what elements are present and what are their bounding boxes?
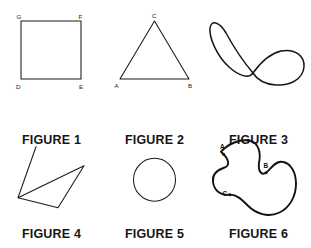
figure-4-caption: FIGURE 4: [22, 228, 81, 248]
figure-5-art: [103, 134, 206, 228]
figure-4-drawing: [0, 134, 103, 228]
figure-6-caption: FIGURE 6: [229, 228, 288, 248]
figure-6-cell: A B C FIGURE 6: [206, 134, 311, 248]
vertex-label-a: A: [115, 82, 120, 89]
point-label-c: C: [223, 190, 228, 197]
circle-shape: [134, 158, 176, 201]
vertex-label-g: G: [17, 13, 22, 20]
vertex-label-f: F: [79, 13, 83, 20]
irregular-blob-curve: [213, 140, 296, 215]
figure-4-art: [0, 134, 103, 228]
figure-5-drawing: [103, 134, 206, 228]
figure-eight-curve: [210, 23, 304, 85]
point-marker-c: [229, 193, 232, 196]
figure-2-drawing: C A B: [103, 0, 206, 134]
point-marker-b: [265, 171, 268, 174]
point-label-a: A: [220, 143, 225, 150]
figure-6-art: A B C: [206, 134, 311, 228]
figure-2-art: C A B: [103, 0, 206, 134]
figure-6-drawing: A B C: [206, 134, 311, 228]
point-label-b: B: [264, 162, 269, 169]
crossed-zigzag-path: [18, 147, 84, 208]
figure-4-cell: FIGURE 4: [0, 134, 103, 248]
figure-3-drawing: [206, 0, 311, 134]
figure-2-cell: C A B FIGURE 2: [103, 0, 206, 134]
figure-5-cell: FIGURE 5: [103, 134, 206, 248]
vertex-label-e: E: [79, 83, 83, 90]
figures-grid: G F D E FIGURE 1 C A B FIGURE 2: [0, 0, 311, 248]
vertex-label-b: B: [188, 82, 192, 89]
point-marker-a: [222, 153, 225, 156]
figure-1-drawing: G F D E: [0, 0, 103, 134]
figure-1-art: G F D E: [0, 0, 103, 134]
figure-3-cell: FIGURE 3: [206, 0, 311, 134]
figure-3-art: [206, 0, 311, 134]
figure-1-cell: G F D E FIGURE 1: [0, 0, 103, 134]
figure-5-caption: FIGURE 5: [125, 228, 184, 248]
figures-sheet: G F D E FIGURE 1 C A B FIGURE 2: [0, 0, 311, 248]
vertex-label-d: D: [16, 83, 21, 90]
triangle-shape: [120, 21, 189, 79]
vertex-label-c: C: [152, 12, 157, 19]
square-shape: [21, 21, 81, 79]
